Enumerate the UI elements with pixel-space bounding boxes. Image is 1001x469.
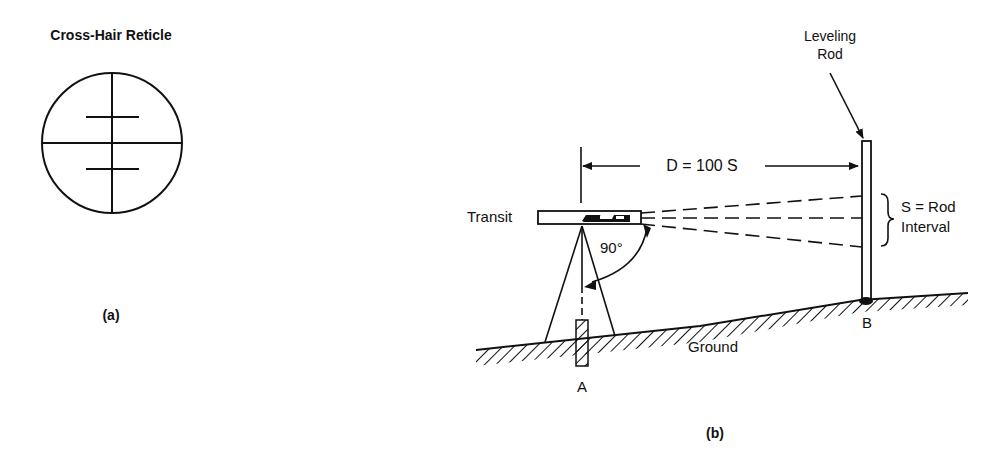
- caption-a: (a): [102, 307, 119, 323]
- diagram-canvas: Cross-Hair Reticle (a) Ground: [0, 0, 1001, 469]
- interval-label-line1: S = Rod: [901, 198, 956, 215]
- transit-icon: [538, 211, 641, 224]
- arc-arrow-left-icon: [584, 280, 596, 290]
- distance-label: D = 100 S: [666, 157, 738, 174]
- angle-label: 90°: [600, 239, 623, 256]
- point-a-label: A: [577, 378, 587, 395]
- interval-brace: [881, 194, 894, 246]
- point-b-label: B: [862, 314, 872, 331]
- rod-pointer-arrow-icon: [830, 73, 863, 138]
- panel-b: Ground Transit 90°: [467, 28, 968, 441]
- ground-label: Ground: [688, 338, 738, 355]
- caption-b: (b): [706, 425, 724, 441]
- leveling-rod: [862, 141, 871, 301]
- rod-label-line2: Rod: [817, 46, 843, 62]
- point-b-marker: [859, 297, 873, 305]
- reticle-title: Cross-Hair Reticle: [50, 27, 172, 43]
- sight-lines: [641, 196, 862, 247]
- panel-a: Cross-Hair Reticle (a): [42, 27, 182, 323]
- rod-label-line1: Leveling: [804, 28, 856, 44]
- interval-label-line2: Interval: [901, 218, 950, 235]
- arc-arrow-up-icon: [643, 224, 651, 238]
- transit-label: Transit: [467, 208, 513, 225]
- reticle-icon: [42, 73, 182, 213]
